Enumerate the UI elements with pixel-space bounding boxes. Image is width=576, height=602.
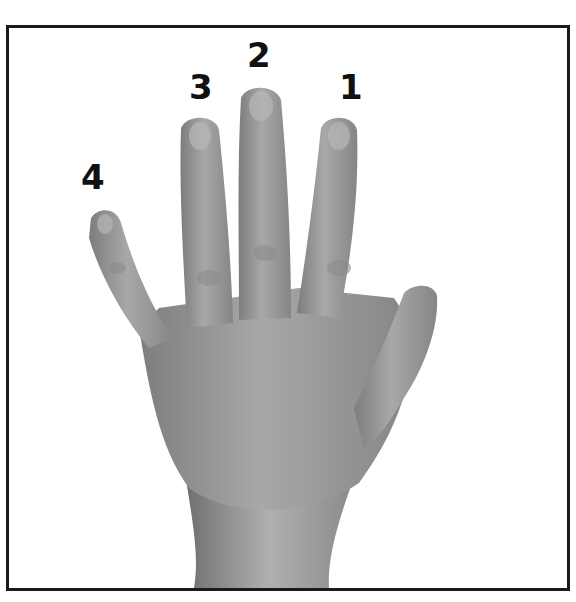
hand-image bbox=[9, 28, 567, 588]
finger-label-1: 1 bbox=[339, 70, 363, 104]
finger-label-3: 3 bbox=[189, 70, 213, 104]
image-frame: 4 3 2 1 bbox=[6, 25, 570, 591]
finger-label-2: 2 bbox=[247, 38, 271, 72]
finger-label-4: 4 bbox=[81, 160, 105, 194]
